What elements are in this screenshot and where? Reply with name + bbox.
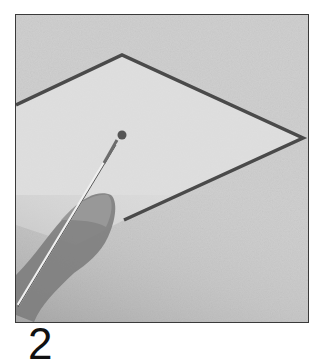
brush-tip <box>118 131 127 140</box>
wall-painting-photo <box>16 15 308 322</box>
step-number: 2 <box>28 322 52 363</box>
photo-frame <box>15 14 309 323</box>
